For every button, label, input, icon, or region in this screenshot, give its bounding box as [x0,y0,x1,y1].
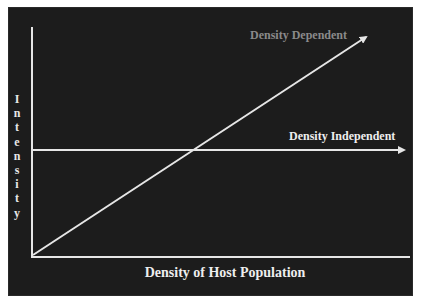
density-independent-label: Density Independent [289,129,395,144]
density-dependent-line [33,37,366,255]
plot-area [0,0,423,303]
density-dependent-label: Density Dependent [250,28,347,43]
x-axis-label: Density of Host Population [130,265,320,281]
y-axis-label: I n t e n s i t y [9,92,25,220]
